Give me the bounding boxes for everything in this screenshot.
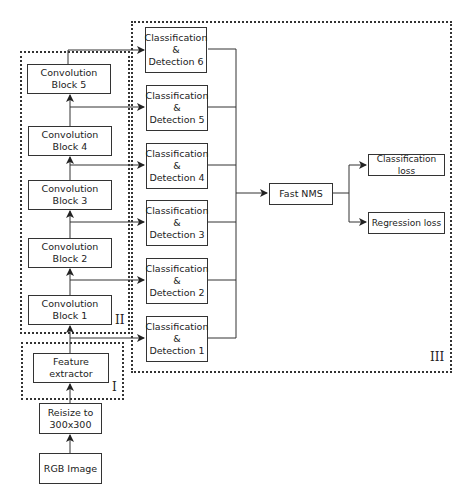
regression-loss-box: Regression loss bbox=[368, 212, 445, 234]
fast-nms-label: Fast NMS bbox=[279, 188, 322, 200]
detection-label-line3: Detection 4 bbox=[149, 172, 204, 184]
detection-box-5: Classification & Detection 5 bbox=[146, 85, 208, 131]
rgb-image-box: RGB Image bbox=[39, 453, 102, 484]
conv-block-label: Convolution Block 2 bbox=[29, 241, 111, 265]
detection-label-line3: Detection 1 bbox=[149, 345, 204, 357]
detection-label-line1: Classification bbox=[146, 90, 209, 102]
detection-box-1: Classification & Detection 1 bbox=[146, 316, 208, 362]
detection-label-line2: & bbox=[173, 160, 180, 172]
conv-block-4: Convolution Block 4 bbox=[28, 126, 112, 156]
detection-label-line1: Classification bbox=[146, 263, 209, 275]
group-label-iii: III bbox=[430, 350, 444, 364]
feature-extractor-box: Feature extractor bbox=[33, 353, 109, 383]
detection-label-line2: & bbox=[173, 102, 180, 114]
resize-label-line2: 300x300 bbox=[50, 419, 92, 431]
detection-label-line2: & bbox=[173, 275, 180, 287]
detection-label-line2: & bbox=[173, 217, 180, 229]
resize-box: Reisize to 300x300 bbox=[39, 403, 102, 434]
regression-loss-label: Regression loss bbox=[372, 217, 441, 229]
detection-label-line2: & bbox=[172, 44, 179, 56]
classification-loss-box: Classification loss bbox=[368, 154, 445, 176]
detection-label-line2: & bbox=[173, 333, 180, 345]
detection-label-line3: Detection 6 bbox=[148, 56, 203, 68]
resize-label-line1: Reisize to bbox=[48, 407, 94, 419]
classification-loss-label: Classification loss bbox=[369, 153, 444, 177]
detection-label-line1: Classification bbox=[146, 205, 209, 217]
detection-label-line3: Detection 5 bbox=[149, 114, 204, 126]
detection-label-line3: Detection 3 bbox=[149, 229, 204, 241]
conv-block-1: Convolution Block 1 bbox=[28, 295, 112, 325]
conv-block-label: Convolution Block 5 bbox=[28, 67, 110, 91]
detection-box-3: Classification & Detection 3 bbox=[146, 200, 208, 246]
detection-box-6: Classification & Detection 6 bbox=[145, 27, 207, 73]
group-label-i: I bbox=[112, 380, 117, 394]
detection-label-line1: Classification bbox=[146, 321, 209, 333]
group-label-ii: II bbox=[115, 313, 124, 327]
conv-block-3: Convolution Block 3 bbox=[28, 180, 112, 210]
conv-block-label: Convolution Block 3 bbox=[29, 183, 111, 207]
detection-box-4: Classification & Detection 4 bbox=[146, 143, 208, 189]
detection-box-2: Classification & Detection 2 bbox=[146, 258, 208, 304]
conv-block-label: Convolution Block 4 bbox=[29, 129, 111, 153]
conv-block-5: Convolution Block 5 bbox=[27, 64, 111, 94]
conv-block-2: Convolution Block 2 bbox=[28, 238, 112, 268]
detection-label-line1: Classification bbox=[145, 32, 208, 44]
conv-block-label: Convolution Block 1 bbox=[29, 298, 111, 322]
feature-extractor-label: Feature extractor bbox=[34, 356, 108, 380]
rgb-image-label: RGB Image bbox=[44, 463, 97, 475]
fast-nms-box: Fast NMS bbox=[269, 183, 333, 205]
detection-label-line1: Classification bbox=[146, 148, 209, 160]
detection-label-line3: Detection 2 bbox=[149, 287, 204, 299]
